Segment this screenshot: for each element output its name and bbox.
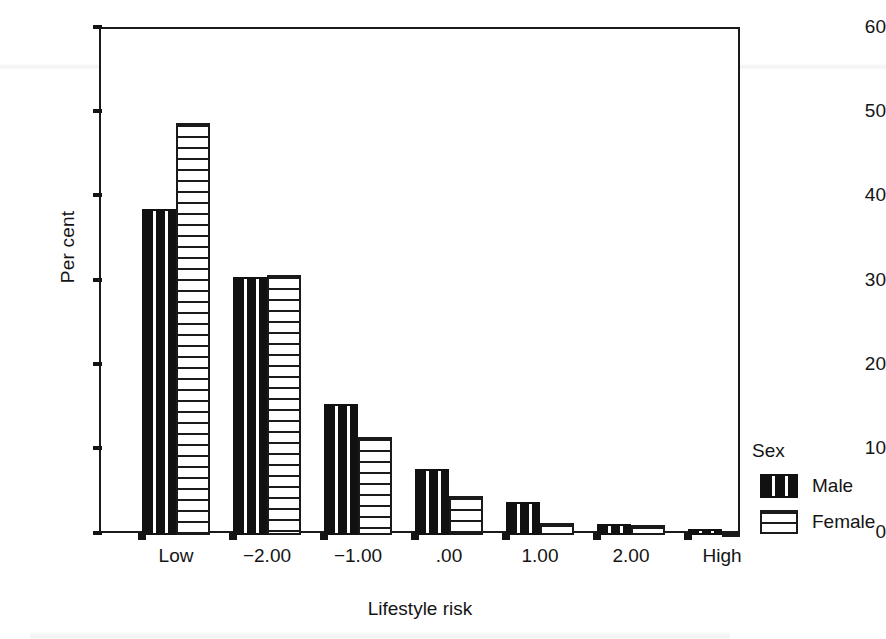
x-tick-mark-zero: [411, 533, 419, 540]
y-tick-label-20: 20: [846, 353, 886, 375]
legend-item-female: Female: [760, 504, 882, 540]
y-tick-label-60: 60: [846, 16, 886, 38]
x-axis-title: Lifestyle risk: [250, 598, 590, 620]
y-tick-mark-20: [93, 362, 102, 366]
x-tick-mark-high: [684, 533, 692, 540]
legend-label-female: Female: [812, 511, 875, 533]
legend-swatch-male-icon: [760, 474, 798, 498]
plot-area: [99, 27, 740, 533]
y-tick-mark-0: [93, 531, 102, 535]
legend-label-male: Male: [812, 475, 853, 497]
legend-item-male: Male: [760, 468, 882, 504]
y-tick-label-40: 40: [846, 184, 886, 206]
y-axis-title: Per cent: [57, 167, 79, 327]
y-tick-mark-50: [93, 109, 102, 113]
x-tick-mark-pos2: [593, 533, 601, 540]
y-tick-mark-30: [93, 278, 102, 282]
bar-female-high: [722, 533, 740, 537]
x-tick-mark-neg2: [229, 533, 237, 540]
x-tick-mark-pos1: [502, 533, 510, 540]
x-tick-mark-neg1: [320, 533, 328, 540]
x-tick-label-high: High: [662, 545, 782, 567]
y-tick-mark-60: [93, 25, 102, 29]
legend: Sex Male Female: [752, 440, 882, 540]
legend-title: Sex: [752, 440, 882, 462]
y-tick-label-30: 30: [846, 269, 886, 291]
legend-swatch-female-icon: [760, 510, 798, 534]
y-tick-mark-10: [93, 446, 102, 450]
y-tick-label-50: 50: [846, 100, 886, 122]
y-tick-mark-40: [93, 193, 102, 197]
x-tick-mark-low: [138, 533, 146, 540]
bar-chart-figure: Per cent 60 50 40 30 20 10 0: [0, 0, 886, 639]
scan-artifact-bottom: [30, 631, 730, 639]
